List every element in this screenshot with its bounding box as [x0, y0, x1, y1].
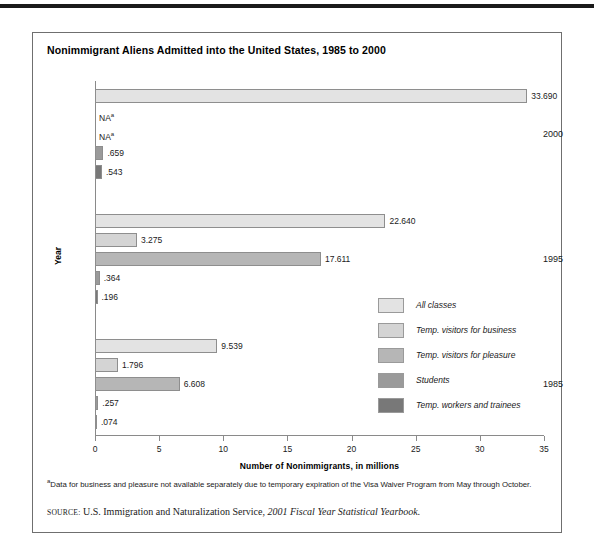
legend-item: Students [378, 371, 553, 396]
x-axis-tick-label: 35 [539, 444, 548, 454]
x-axis-tick-label: 30 [475, 444, 484, 454]
bar-value-label: .257 [102, 396, 119, 410]
bar-value-label: .659 [107, 146, 124, 160]
chart-legend: All classesTemp. visitors for businessTe… [378, 296, 553, 421]
source-keyword: SOURCE: [47, 508, 80, 517]
bar [95, 339, 217, 353]
chart-plot-area: 05101520253035 Number of Nonimmigrants, … [33, 33, 563, 534]
x-axis-tick [352, 436, 353, 441]
bar [95, 146, 103, 160]
legend-swatch [378, 373, 404, 388]
legend-swatch [378, 323, 404, 338]
bar-value-label: .196 [102, 290, 119, 304]
bar-value-label: 22.640 [389, 214, 415, 228]
bar [95, 377, 180, 391]
source-title: 2001 Fiscal Year Statistical Yearbook. [267, 506, 420, 517]
legend-swatch [378, 298, 404, 313]
page-root: Nonimmigrant Aliens Admitted into the Un… [0, 0, 594, 554]
y-axis-tick-label: 2000 [507, 127, 563, 141]
legend-item: Temp. workers and trainees [378, 396, 553, 421]
bar [95, 290, 98, 304]
top-rule-divider [0, 4, 594, 8]
bar-value-label: 3.275 [141, 233, 162, 247]
x-axis-tick [95, 436, 96, 441]
bar [95, 233, 137, 247]
bar-na-label: NAa [99, 108, 114, 125]
bar-value-label: .543 [106, 165, 123, 179]
x-axis-tick [287, 436, 288, 441]
bar-value-label: 1.796 [122, 358, 143, 372]
bar-value-label: 9.539 [221, 339, 242, 353]
legend-item: All classes [378, 296, 553, 321]
x-axis-title: Number of Nonimmigrants, in millions [95, 461, 544, 471]
x-axis-tick [480, 436, 481, 441]
x-axis-line [95, 435, 544, 436]
na-footnote-marker: a [111, 112, 114, 118]
x-axis-tick [416, 436, 417, 441]
footnote-text: Data for business and pleasure not avail… [50, 480, 531, 489]
x-axis-tick-label: 15 [283, 444, 292, 454]
legend-label: Temp. workers and trainees [416, 398, 521, 413]
na-value-text: NA [99, 113, 111, 123]
bar [95, 89, 527, 103]
legend-label: Temp. visitors for business [416, 323, 516, 338]
x-axis-tick-label: 25 [411, 444, 420, 454]
bar [95, 165, 102, 179]
x-axis-tick-label: 5 [157, 444, 162, 454]
legend-label: Temp. visitors for pleasure [416, 348, 515, 363]
x-axis-tick [544, 436, 545, 441]
bar [95, 271, 100, 285]
legend-label: All classes [416, 298, 456, 313]
legend-item: Temp. visitors for pleasure [378, 346, 553, 371]
bar-value-label: 6.608 [184, 377, 205, 391]
y-axis-tick-label: 1995 [507, 252, 563, 266]
legend-swatch [378, 348, 404, 363]
source-note: SOURCE: U.S. Immigration and Naturalizat… [47, 506, 549, 517]
bar [95, 415, 97, 429]
x-axis-tick [223, 436, 224, 441]
legend-swatch [378, 398, 404, 413]
bar [95, 252, 321, 266]
na-value-text: NA [99, 132, 111, 142]
bar-value-label: 17.611 [325, 252, 350, 266]
bar [95, 214, 385, 228]
bar [95, 396, 98, 410]
source-text: U.S. Immigration and Naturalization Serv… [83, 506, 265, 517]
bar [95, 358, 118, 372]
x-axis-tick-label: 20 [347, 444, 356, 454]
footnote: aData for business and pleasure not avai… [47, 476, 549, 490]
x-axis-tick-label: 0 [93, 444, 98, 454]
legend-item: Temp. visitors for business [378, 321, 553, 346]
legend-label: Students [416, 373, 450, 388]
bar-na-label: NAa [99, 127, 114, 144]
bar-value-label: 33.690 [531, 89, 557, 103]
na-footnote-marker: a [111, 131, 114, 137]
bar-value-label: .074 [101, 415, 118, 429]
x-axis-tick [159, 436, 160, 441]
x-axis-tick-label: 10 [219, 444, 228, 454]
y-axis-title: Year [53, 226, 63, 286]
figure-box: Nonimmigrant Aliens Admitted into the Un… [32, 32, 562, 533]
bar-value-label: .364 [104, 271, 121, 285]
